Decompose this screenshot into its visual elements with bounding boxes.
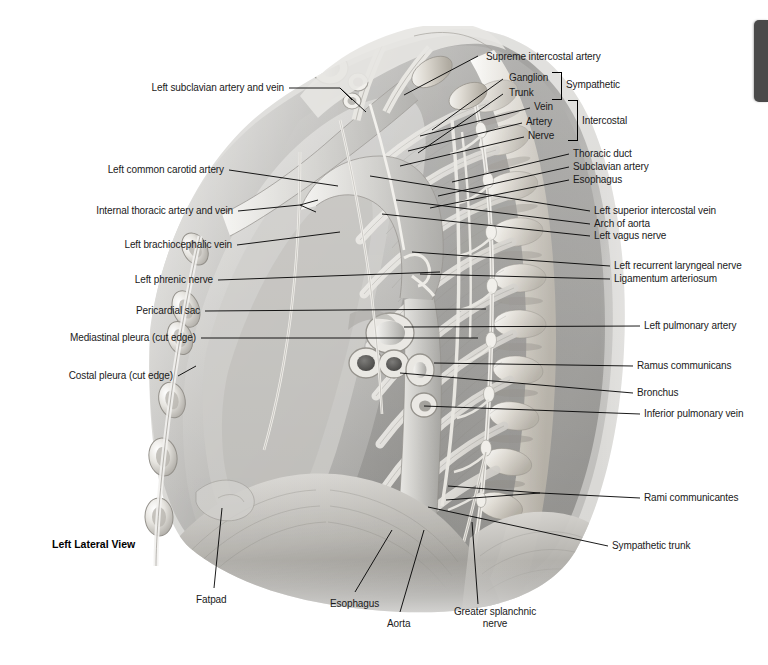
label-esophagus-upper: Esophagus <box>573 174 622 186</box>
label-bronchus: Bronchus <box>637 387 678 399</box>
label-pericardial-sac: Pericardial sac <box>0 305 200 317</box>
label-inferior-pulmonary-vein: Inferior pulmonary vein <box>644 408 743 420</box>
label-sympathetic: Sympathetic <box>566 79 620 91</box>
label-fatpad: Fatpad <box>196 594 227 606</box>
label-nerve: Nerve <box>528 130 554 142</box>
greater-splanchnic-nerve-line1: Greater splanchnic <box>454 606 536 617</box>
label-left-recurrent-laryngeal-nerve: Left recurrent laryngeal nerve <box>614 260 742 272</box>
label-supreme-intercostal-artery: Supreme intercostal artery <box>486 51 601 63</box>
label-mediastinal-pleura-cut-edge: Mediastinal pleura (cut edge) <box>0 332 196 344</box>
label-sympathetic-trunk: Sympathetic trunk <box>612 540 690 552</box>
label-left-phrenic-nerve: Left phrenic nerve <box>0 274 213 286</box>
view-title: Left Lateral View <box>52 538 135 550</box>
label-internal-thoracic-artery-and-vein: Internal thoracic artery and vein <box>0 205 233 217</box>
greater-splanchnic-nerve-line2: nerve <box>483 618 508 629</box>
label-aorta: Aorta <box>387 618 410 630</box>
label-left-subclavian-artery-and-vein: Left subclavian artery and vein <box>0 82 284 94</box>
label-left-common-carotid-artery: Left common carotid artery <box>0 164 224 176</box>
label-left-superior-intercostal-vein: Left superior intercostal vein <box>594 205 716 217</box>
intercostal-bracket <box>568 100 578 141</box>
label-vein: Vein <box>534 101 553 113</box>
label-trunk: Trunk <box>509 87 534 99</box>
label-left-vagus-nerve: Left vagus nerve <box>594 230 666 242</box>
anatomy-plate: Left subclavian artery and vein Left com… <box>0 0 768 665</box>
edge-tab[interactable] <box>754 20 768 102</box>
sympathetic-bracket <box>552 72 562 100</box>
label-rami-communicantes: Rami communicantes <box>644 492 738 504</box>
label-arch-of-aorta: Arch of aorta <box>594 218 650 230</box>
label-thoracic-duct: Thoracic duct <box>573 148 632 160</box>
label-costal-pleura-cut-edge: Costal pleura (cut edge) <box>0 370 173 382</box>
label-artery: Artery <box>526 116 552 128</box>
label-greater-splanchnic-nerve: Greater splanchnic nerve <box>440 606 550 629</box>
label-ramus-communicans: Ramus communicans <box>637 360 731 372</box>
label-subclavian-artery: Subclavian artery <box>573 161 649 173</box>
label-intercostal: Intercostal <box>582 115 627 127</box>
label-ganglion: Ganglion <box>509 72 548 84</box>
label-ligamentum-arteriosum: Ligamentum arteriosum <box>614 273 717 285</box>
label-left-pulmonary-artery: Left pulmonary artery <box>644 320 736 332</box>
label-left-brachiocephalic-vein: Left brachiocephalic vein <box>0 239 232 251</box>
label-esophagus-lower: Esophagus <box>330 598 379 610</box>
